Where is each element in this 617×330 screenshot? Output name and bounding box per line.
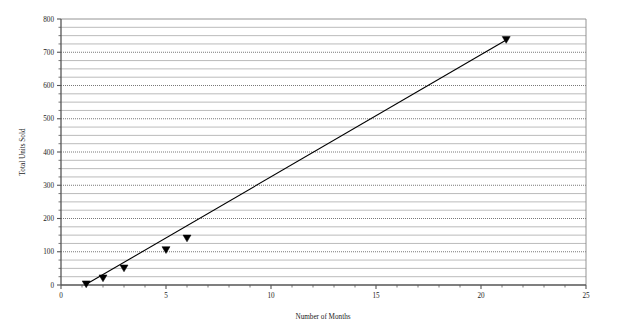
x-axis-tick-label: 15 xyxy=(372,292,380,300)
y-axis-tick-label: 800 xyxy=(43,16,54,24)
x-axis-title: Number of Months xyxy=(295,313,350,321)
y-axis-tick-label: 100 xyxy=(43,248,54,256)
x-axis-tick-label: 5 xyxy=(164,292,168,300)
chart-container: 0100200300400500600700800 0510152025 Tot… xyxy=(0,0,617,330)
y-axis-tick-label: 200 xyxy=(43,215,54,223)
y-axis-tick-label: 600 xyxy=(43,82,54,90)
x-axis-tick-label: 0 xyxy=(59,292,63,300)
y-axis-tick-label: 700 xyxy=(43,49,54,57)
y-axis-tick-label: 500 xyxy=(43,115,54,123)
y-axis-tick-labels: 0100200300400500600700800 xyxy=(43,16,54,290)
x-axis-tick-label: 20 xyxy=(477,292,485,300)
y-axis-tick-label: 0 xyxy=(50,282,54,290)
x-axis-tick-label: 10 xyxy=(267,292,275,300)
chart-canvas: 0100200300400500600700800 0510152025 Tot… xyxy=(0,0,617,330)
y-axis-tick-label: 300 xyxy=(43,182,54,190)
y-axis-tick-label: 400 xyxy=(43,149,54,157)
y-axis-title: Total Units Sold xyxy=(19,128,27,175)
x-axis-tick-label: 25 xyxy=(582,292,590,300)
